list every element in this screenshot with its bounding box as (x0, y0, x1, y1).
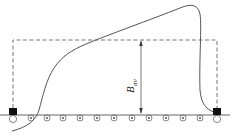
conductor-dot (129, 115, 135, 121)
average-flux-label: Bav (126, 79, 138, 93)
right-square (213, 108, 221, 115)
conductor-plain (213, 115, 220, 122)
conductors (9, 115, 220, 123)
flux-density-curve (12, 5, 214, 131)
left-square (9, 108, 17, 115)
conductor-plain (9, 115, 16, 122)
conductor-dot (28, 115, 34, 121)
conductor-dot (111, 115, 117, 121)
conductor-dot (180, 115, 186, 121)
label-subscript: av (131, 79, 138, 86)
conductor-dot (60, 115, 66, 121)
conductor-dot (146, 115, 152, 121)
conductor-dot (77, 115, 83, 121)
conductor-dot (94, 115, 100, 121)
label-main: B (126, 86, 136, 93)
conductor-dot (197, 115, 203, 121)
conductor-dot (163, 115, 169, 121)
average-flux-arrow (139, 40, 142, 114)
flux-distribution-diagram (0, 0, 234, 139)
average-flux-rectangle (13, 40, 217, 108)
conductor-dot (44, 115, 50, 121)
